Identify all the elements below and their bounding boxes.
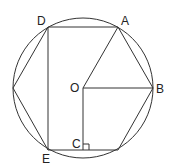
label-D: D <box>37 14 46 28</box>
segment-OA <box>83 27 118 88</box>
label-E: E <box>42 152 50 166</box>
label-A: A <box>121 14 129 28</box>
label-B: B <box>156 82 164 96</box>
label-C: C <box>72 137 81 151</box>
label-O: O <box>70 81 79 95</box>
right-angle-marker <box>83 144 89 150</box>
geometry-diagram: D A O B C E <box>0 0 169 166</box>
